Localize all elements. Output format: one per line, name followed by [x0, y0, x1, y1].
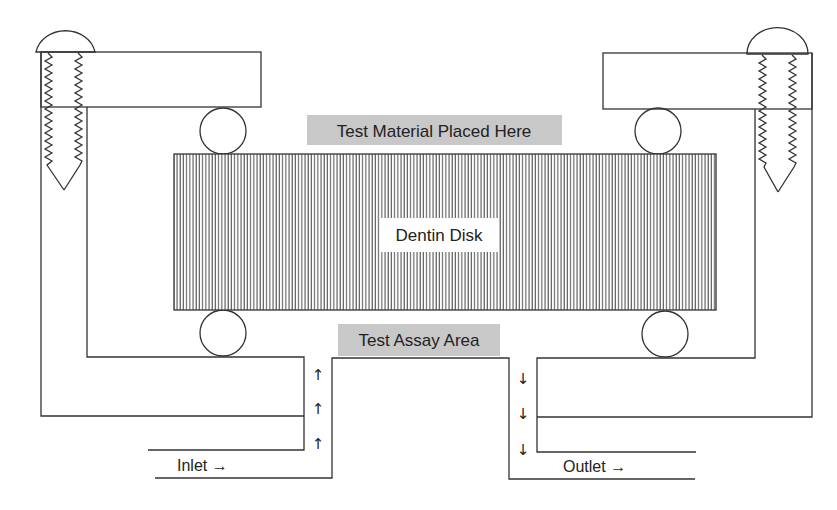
o-ring-top-right	[635, 108, 681, 154]
left-screw	[36, 31, 95, 190]
label-outlet: Outlet →	[563, 458, 626, 475]
outlet-flow-arrows: ↓ ↓ ↓	[517, 370, 530, 459]
label-test-material: Test Material Placed Here	[307, 115, 562, 145]
o-ring-top-left	[200, 108, 246, 154]
down-arrow-icon: ↓	[517, 405, 530, 423]
o-ring-bottom-left	[200, 310, 246, 356]
up-arrow-icon: ↑	[312, 400, 325, 418]
right-screw	[747, 28, 808, 192]
up-arrow-icon: ↑	[312, 435, 325, 453]
label-inlet: Inlet →	[177, 457, 228, 474]
chamber-diagram: Test Material Placed Here Dentin Disk Te…	[0, 0, 837, 510]
down-arrow-icon: ↓	[517, 441, 530, 459]
svg-text:Dentin Disk: Dentin Disk	[396, 226, 483, 245]
inlet-flow-arrows: ↑ ↑ ↑	[312, 366, 325, 453]
label-dentin-disk: Dentin Disk	[380, 218, 498, 252]
svg-text:Test Assay Area: Test Assay Area	[359, 331, 480, 350]
o-ring-bottom-right	[642, 311, 688, 357]
down-arrow-icon: ↓	[517, 370, 530, 388]
svg-text:Test Material Placed Here: Test Material Placed Here	[337, 122, 532, 141]
up-arrow-icon: ↑	[312, 366, 325, 384]
label-test-assay: Test Assay Area	[338, 324, 500, 356]
